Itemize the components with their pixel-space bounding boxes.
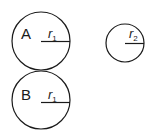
circle-small: r2 <box>106 24 144 62</box>
circle-a-label: A <box>21 25 31 42</box>
circle-b: B r1 <box>12 71 70 129</box>
circle-a-radius-label: r1 <box>48 26 57 43</box>
circles-diagram: A r1 B r1 r2 <box>0 0 153 137</box>
circle-b-label: B <box>21 86 31 103</box>
circle-b-radius-label: r1 <box>48 87 57 104</box>
circle-a: A r1 <box>12 12 70 70</box>
